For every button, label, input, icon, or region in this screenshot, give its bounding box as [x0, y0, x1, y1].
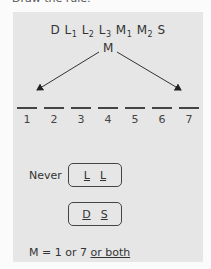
slot: 5: [125, 107, 145, 126]
slot: 3: [71, 107, 91, 126]
never-label: Never: [29, 169, 62, 182]
m-rule-text: M = 1 or 7 or both: [29, 246, 130, 259]
box-item: S: [101, 208, 108, 221]
slot: 6: [152, 107, 172, 126]
position-slots: 1 2 3 4 5 6 7: [17, 107, 199, 126]
page-title: Draw the rule:: [12, 0, 91, 5]
never-box-ds: D S: [68, 202, 122, 226]
slot: 2: [44, 107, 64, 126]
arrow-left-icon: [37, 52, 99, 90]
rule-diagram-panel: D L1 L2 L3 M1 M2 S M 1 2 3 4 5 6 7 Never…: [13, 12, 203, 262]
arrows-icon: [13, 12, 203, 112]
box-item: L: [100, 169, 106, 182]
box-item: L: [84, 169, 90, 182]
slot: 7: [179, 107, 199, 126]
arrow-right-icon: [117, 52, 181, 90]
slot: 1: [17, 107, 37, 126]
slot: 4: [98, 107, 118, 126]
box-item: D: [82, 208, 90, 221]
never-box-ll: L L: [68, 163, 122, 187]
